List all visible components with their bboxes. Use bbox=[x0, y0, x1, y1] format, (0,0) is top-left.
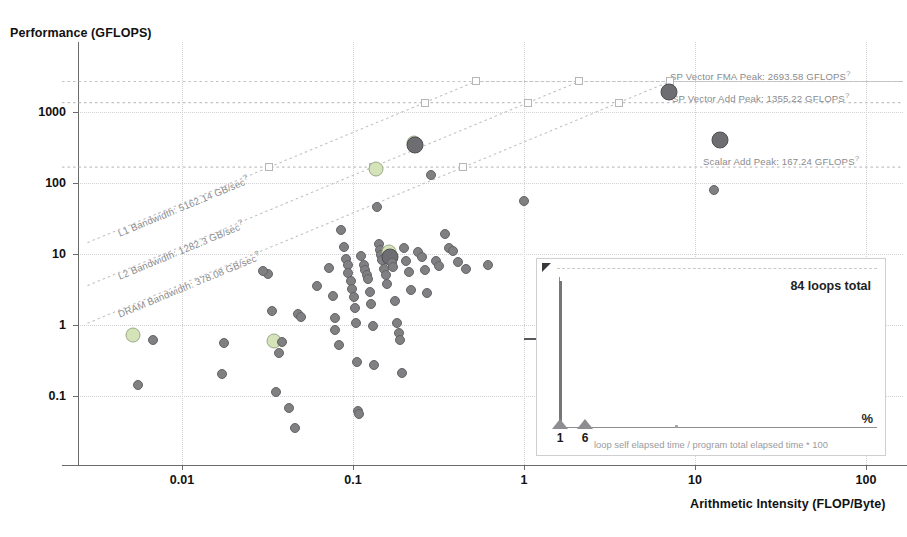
scatter-point[interactable] bbox=[711, 132, 728, 149]
scatter-point[interactable] bbox=[312, 281, 322, 291]
scatter-point[interactable] bbox=[352, 357, 362, 367]
scatter-point[interactable] bbox=[399, 243, 409, 253]
scatter-point[interactable] bbox=[339, 242, 349, 252]
roof-label-dram-bandwidth[interactable]: DRAM Bandwidth: 378.08 GB/sec? bbox=[115, 248, 262, 319]
scatter-point[interactable] bbox=[271, 387, 281, 397]
x-tick-label: 0.1 bbox=[344, 473, 361, 487]
roof-knee-handle[interactable] bbox=[459, 163, 467, 171]
scatter-point[interactable] bbox=[422, 288, 432, 298]
roof-label-sp-vector-fma-peak[interactable]: SP Vector FMA Peak: 2693.58 GFLOPS? bbox=[670, 69, 851, 82]
scatter-point[interactable] bbox=[404, 267, 414, 277]
scatter-point[interactable] bbox=[330, 313, 340, 323]
scatter-point[interactable] bbox=[336, 225, 346, 235]
scatter-point[interactable] bbox=[519, 196, 529, 206]
scatter-point[interactable] bbox=[426, 170, 436, 180]
inset-slider-handle-low[interactable] bbox=[552, 419, 568, 429]
scatter-point[interactable] bbox=[354, 409, 364, 419]
y-tick-label: 1 bbox=[14, 318, 66, 332]
inset-slider-handle-high[interactable] bbox=[577, 419, 593, 429]
scatter-point[interactable] bbox=[417, 252, 427, 262]
scatter-point[interactable] bbox=[351, 318, 361, 328]
scatter-point[interactable] bbox=[401, 256, 411, 266]
scatter-point[interactable] bbox=[258, 266, 268, 276]
scatter-point[interactable] bbox=[368, 161, 383, 176]
roof-label-sp-vector-add-peak[interactable]: SP Vector Add Peak: 1355.22 GFLOPS? bbox=[672, 91, 850, 104]
scatter-point[interactable] bbox=[388, 262, 398, 272]
roof-knee-handle[interactable] bbox=[421, 99, 429, 107]
scatter-point[interactable] bbox=[324, 263, 334, 273]
help-tooltip-icon[interactable]: ? bbox=[846, 69, 851, 78]
inset-percent-symbol: % bbox=[861, 411, 873, 426]
scatter-point[interactable] bbox=[290, 423, 300, 433]
scatter-point[interactable] bbox=[368, 321, 378, 331]
y-tick-label: 10 bbox=[14, 247, 66, 261]
inset-caption: loop self elapsed time / program total e… bbox=[537, 439, 885, 450]
collapse-triangle-icon[interactable] bbox=[542, 263, 551, 272]
scatter-point[interactable] bbox=[267, 306, 277, 316]
scatter-point[interactable] bbox=[392, 318, 402, 328]
scatter-point[interactable] bbox=[407, 136, 424, 153]
scatter-point[interactable] bbox=[660, 84, 677, 101]
scatter-point[interactable] bbox=[420, 265, 430, 275]
roof-knee-handle[interactable] bbox=[615, 99, 623, 107]
loops-histogram-inset[interactable]: 84 loops total 1 6 % loop self elapsed t… bbox=[536, 258, 886, 456]
scatter-point[interactable] bbox=[126, 328, 141, 343]
scatter-point[interactable] bbox=[390, 296, 400, 306]
scatter-point[interactable] bbox=[328, 291, 338, 301]
bandwidth-roof-l2-bandwidth bbox=[528, 81, 579, 102]
x-axis-line bbox=[62, 465, 907, 466]
y-tick-label: 1000 bbox=[14, 105, 66, 119]
scatter-point[interactable] bbox=[284, 403, 294, 413]
x-tick-label: 1 bbox=[521, 473, 528, 487]
scatter-point[interactable] bbox=[382, 279, 392, 289]
x-axis-title: Arithmetic Intensity (FLOP/Byte) bbox=[690, 497, 886, 511]
scatter-point[interactable] bbox=[461, 264, 471, 274]
scatter-point[interactable] bbox=[448, 246, 458, 256]
scatter-point[interactable] bbox=[148, 335, 158, 345]
scatter-point[interactable] bbox=[406, 285, 416, 295]
y-tick-label: 100 bbox=[14, 176, 66, 190]
x-tick-label: 0.01 bbox=[170, 473, 194, 487]
help-tooltip-icon[interactable]: ? bbox=[855, 154, 860, 163]
y-axis-title: Performance (GFLOPS) bbox=[10, 26, 152, 40]
bandwidth-roof-l1-bandwidth bbox=[425, 81, 476, 102]
roof-label-scalar-add-peak[interactable]: Scalar Add Peak: 167.24 GFLOPS? bbox=[703, 154, 859, 167]
roof-knee-handle[interactable] bbox=[472, 77, 480, 85]
scatter-point[interactable] bbox=[277, 337, 287, 347]
scatter-point[interactable] bbox=[434, 261, 444, 271]
scatter-point[interactable] bbox=[365, 287, 375, 297]
roof-knee-handle[interactable] bbox=[524, 99, 532, 107]
grid-line-horizontal bbox=[78, 112, 903, 113]
help-tooltip-icon[interactable]: ? bbox=[845, 91, 850, 100]
scatter-point[interactable] bbox=[274, 348, 284, 358]
scatter-point[interactable] bbox=[363, 274, 373, 284]
scatter-point[interactable] bbox=[440, 229, 450, 239]
scatter-point[interactable] bbox=[349, 292, 359, 302]
y-tick-label: 0.1 bbox=[14, 389, 66, 403]
scatter-point[interactable] bbox=[330, 325, 340, 335]
scatter-point[interactable] bbox=[369, 360, 379, 370]
loops-total-label: 84 loops total bbox=[790, 279, 871, 293]
scatter-point[interactable] bbox=[350, 303, 360, 313]
scatter-point[interactable] bbox=[366, 299, 376, 309]
scatter-point[interactable] bbox=[219, 338, 229, 348]
scatter-point[interactable] bbox=[296, 312, 306, 322]
grid-line-horizontal bbox=[78, 183, 903, 184]
inset-axis-dot bbox=[675, 425, 678, 428]
y-axis-line bbox=[78, 42, 79, 466]
inset-x-axis bbox=[559, 427, 877, 428]
scatter-point[interactable] bbox=[217, 369, 227, 379]
scatter-point[interactable] bbox=[334, 340, 344, 350]
scatter-point[interactable] bbox=[133, 380, 143, 390]
grid-line-horizontal bbox=[78, 254, 903, 255]
roof-knee-handle[interactable] bbox=[265, 163, 273, 171]
roof-knee-handle[interactable] bbox=[575, 77, 583, 85]
scatter-point[interactable] bbox=[372, 202, 382, 212]
x-tick-label: 10 bbox=[688, 473, 702, 487]
scatter-point[interactable] bbox=[397, 368, 407, 378]
scatter-point[interactable] bbox=[395, 335, 405, 345]
x-tick-label: 100 bbox=[856, 473, 877, 487]
scatter-point[interactable] bbox=[709, 185, 719, 195]
scatter-point[interactable] bbox=[483, 260, 493, 270]
roofline-chart[interactable]: Performance (GFLOPS) Arithmetic Intensit… bbox=[0, 0, 907, 537]
